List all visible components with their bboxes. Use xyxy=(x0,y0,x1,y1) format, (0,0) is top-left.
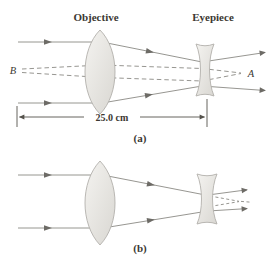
panel-b: (b) xyxy=(18,161,251,255)
ray-arrow-icon xyxy=(44,39,52,45)
dashed-focus-lower-b xyxy=(210,202,239,207)
eyepiece-lens-b xyxy=(197,174,217,224)
caption-a: (a) xyxy=(134,132,147,145)
panel-a: Objective Eyepiece B A 25.0 cm (a) xyxy=(10,11,265,145)
ray-exit-top-a xyxy=(202,53,265,63)
eyepiece-label: Eyepiece xyxy=(192,11,234,23)
ray-arrow-icon xyxy=(44,100,52,106)
ray-exit-top-b xyxy=(208,190,247,195)
point-a-label: A xyxy=(247,68,255,79)
distance-label: 25.0 cm xyxy=(96,112,129,123)
caption-b: (b) xyxy=(133,242,147,255)
ray-arrow-icon xyxy=(146,48,155,55)
ray-arrow-icon xyxy=(145,92,154,99)
ray-arrow-icon xyxy=(147,181,156,188)
point-b-label: B xyxy=(10,65,17,76)
dashed-focus-upper-b xyxy=(210,196,239,201)
objective-lens-b xyxy=(85,161,115,245)
objective-label: Objective xyxy=(73,11,118,23)
telescope-ray-diagram: Objective Eyepiece B A 25.0 cm (a) xyxy=(0,0,278,264)
ray-exit-bottom-b xyxy=(208,209,247,211)
ray-arrow-icon xyxy=(147,217,156,224)
ray-arrow-icon xyxy=(44,225,52,231)
dashed-focus-continuation-b xyxy=(241,201,251,202)
ray-arrow-icon xyxy=(44,172,52,178)
